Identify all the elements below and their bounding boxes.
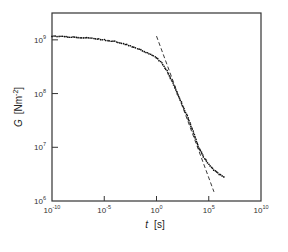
data-point [201,151,203,153]
data-point [168,73,170,75]
data-point [145,52,147,54]
data-series [51,35,224,192]
data-point [89,37,91,39]
data-point [190,124,192,126]
data-point [119,42,121,44]
data-point [65,36,67,38]
data-point [175,89,177,91]
y-tick-label: 108 [34,88,46,99]
data-point [93,38,95,40]
data-point [86,37,88,39]
data-point [137,48,139,50]
data-point [181,101,183,103]
data-point [166,70,168,72]
data-point [195,138,197,140]
data-point [190,126,192,128]
data-point [84,37,86,39]
data-point [126,44,128,46]
data-point [148,53,150,55]
data-point [105,40,107,42]
data-point [187,117,189,119]
plot-frame [52,13,261,201]
data-point [128,45,130,47]
data-point [108,40,110,42]
data-point [51,36,53,38]
data-point [150,53,152,55]
data-point [208,163,210,165]
y-tick-label: 109 [34,34,46,45]
data-point [110,40,112,42]
data-point [201,153,203,155]
data-point [70,36,72,38]
data-point [160,61,162,63]
x-tick-label: 10-10 [44,204,61,215]
data-point [131,46,133,48]
data-point [74,36,76,38]
data-point [77,37,79,39]
x-axis-label: t[s] [145,219,165,230]
data-point [82,37,84,39]
data-point [202,154,204,156]
data-point [60,35,62,37]
x-axis-ticks: 10-1010-51001051010 [44,196,269,215]
data-point [142,50,144,52]
data-point [162,64,164,66]
data-point [88,37,90,39]
data-point [223,176,225,178]
data-point [95,38,97,40]
data-point [163,65,165,67]
data-point [135,47,137,49]
data-point [117,42,119,44]
data-point [140,49,142,51]
x-tick-label: 105 [203,204,215,215]
data-point [188,120,190,122]
data-point [147,52,149,54]
data-point [68,36,70,38]
data-point [133,46,135,48]
data-point [91,37,93,39]
y-tick-label: 106 [34,195,46,206]
data-point [114,40,116,42]
data-point [197,144,199,146]
data-point [199,150,201,152]
data-point [112,40,114,42]
data-point [102,39,104,41]
data-point [161,62,163,64]
data-point [72,36,74,38]
data-point [165,69,167,71]
data-point [207,162,209,164]
data-point [209,165,211,167]
data-point [192,130,194,132]
data-point [123,43,125,45]
data-point [130,45,132,47]
fit-line [157,36,214,192]
y-axis-label: G[Nm-2] [12,87,24,127]
data-point [194,137,196,139]
data-point [172,82,174,84]
data-point [121,42,123,44]
data-point [191,128,193,130]
data-point [206,160,208,162]
data-point [58,36,60,38]
y-axis-ticks: 106107108109 [34,34,58,206]
data-point [170,78,172,80]
data-point [213,169,215,171]
data-point [100,39,102,41]
data-point [158,60,160,62]
data-point [62,35,64,37]
data-point [138,48,140,50]
y-tick-label: 107 [34,141,46,152]
x-tick-label: 1010 [253,204,268,215]
data-point [220,174,222,176]
data-point [221,175,223,177]
data-point [143,51,145,53]
data-point [212,167,214,169]
data-point [202,156,204,158]
data-point [96,38,98,40]
data-point [152,55,154,57]
data-point [217,172,219,174]
data-point [157,58,159,60]
x-tick-label: 10-5 [97,204,111,215]
data-point [76,37,78,39]
data-point [64,36,66,38]
